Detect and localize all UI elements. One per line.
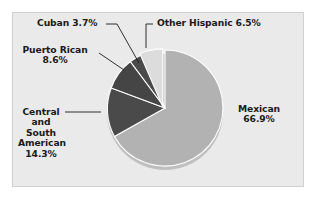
slice-label-central-line5: 14.3% — [18, 149, 64, 159]
slice-label-puerto-rican: Puerto Rican 8.6% — [12, 45, 98, 66]
slice-label-mexican: Mexican 66.9% — [228, 104, 290, 125]
leader-line-cuban — [106, 24, 139, 63]
slice-label-puerto-rican-line2: 8.6% — [12, 55, 98, 65]
slice-label-central-and-south-american: Central and South American 14.3% — [18, 107, 64, 159]
pie-chart-canvas — [0, 0, 318, 202]
leader-line-puerto-rican — [99, 53, 124, 70]
slice-label-mexican-line2: 66.9% — [228, 114, 290, 124]
leader-line-other-hispanic — [146, 24, 153, 48]
slice-label-cuban: Cuban 3.7% — [37, 18, 107, 28]
pie-chart-figure: Cuban 3.7% Other Hispanic 6.5% Puerto Ri… — [0, 0, 318, 202]
slice-label-other-hispanic: Other Hispanic 6.5% — [157, 18, 287, 28]
